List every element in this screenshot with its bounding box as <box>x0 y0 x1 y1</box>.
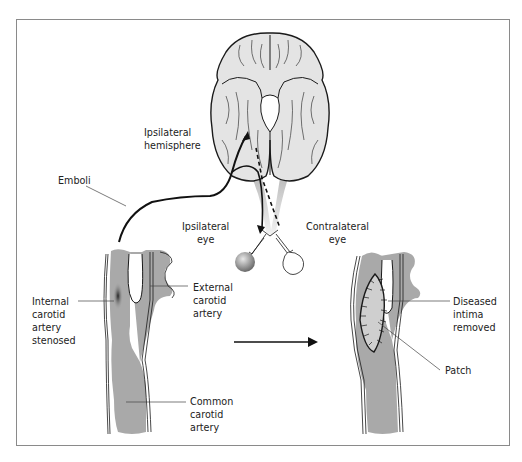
label-external-carotid: External carotid artery <box>193 281 233 320</box>
contralateral-eye-icon <box>283 252 304 275</box>
label-diseased-intima: Diseased intima removed <box>453 295 497 334</box>
label-patch: Patch <box>445 364 471 377</box>
label-emboli: Emboli <box>58 174 91 187</box>
label-internal-carotid: Internal carotid artery stenosed <box>32 295 76 347</box>
optic-nerves <box>249 178 293 256</box>
stenosed-artery-icon <box>104 249 174 434</box>
repaired-artery-icon <box>351 252 421 434</box>
label-contralateral-eye: Contralateral eye <box>306 220 369 246</box>
ipsilateral-eye-icon <box>235 252 255 272</box>
arrow-head-icon <box>308 337 318 347</box>
label-ipsilateral-eye: Ipsilateral eye <box>182 220 229 246</box>
label-ipsilateral-hemisphere: Ipsilateral hemisphere <box>144 126 201 152</box>
carotid-endarterectomy-diagram: Ipsilateral hemisphere Emboli Ipsilatera… <box>0 0 522 462</box>
brain-icon <box>211 33 329 181</box>
diagram-artwork <box>0 0 522 462</box>
label-common-carotid: Common carotid artery <box>190 395 233 434</box>
